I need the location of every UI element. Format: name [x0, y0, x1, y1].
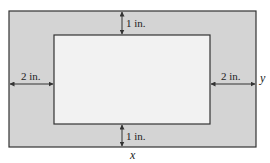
right-margin-label: 2 in.: [221, 70, 241, 82]
width-variable-x: x: [129, 148, 136, 162]
top-margin-label: 1 in.: [126, 17, 146, 29]
left-margin-label: 2 in.: [21, 70, 41, 82]
bottom-margin-label: 1 in.: [126, 130, 146, 142]
height-variable-y: y: [259, 71, 266, 85]
margin-diagram: 1 in. 1 in. 2 in. 2 in. x y: [0, 0, 270, 163]
inner-print-area-rect: [54, 35, 210, 124]
